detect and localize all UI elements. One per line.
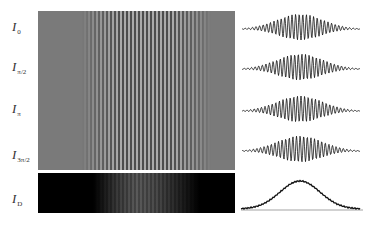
row-label-dc: ID bbox=[12, 192, 22, 208]
dc-glow-stripes bbox=[38, 173, 235, 213]
label-main: I bbox=[12, 59, 16, 74]
plot-i-3pi-half bbox=[238, 130, 368, 170]
plot-i0 bbox=[238, 8, 368, 48]
label-main: I bbox=[12, 191, 16, 206]
row-label-pi: Iπ bbox=[12, 102, 21, 118]
label-main: I bbox=[12, 147, 16, 162]
label-main: I bbox=[12, 101, 16, 116]
row-label-pi-half: Iπ/2 bbox=[12, 60, 26, 76]
row-label-0: I0 bbox=[12, 20, 21, 36]
fringe-stripes bbox=[38, 11, 235, 170]
interferogram-image bbox=[38, 11, 235, 170]
label-main: I bbox=[12, 19, 16, 34]
label-sub: 3π/2 bbox=[17, 156, 29, 164]
label-sub: π/2 bbox=[17, 68, 26, 76]
label-sub: D bbox=[17, 200, 22, 208]
label-sub: π bbox=[17, 110, 21, 118]
label-sub: 0 bbox=[17, 28, 21, 36]
dc-image bbox=[38, 173, 235, 213]
plot-i-pi-half bbox=[238, 48, 368, 88]
plot-i-dc bbox=[238, 175, 368, 215]
plot-i-pi bbox=[238, 90, 368, 130]
row-label-3pi-half: I3π/2 bbox=[12, 148, 30, 164]
profile-plots bbox=[238, 0, 368, 225]
